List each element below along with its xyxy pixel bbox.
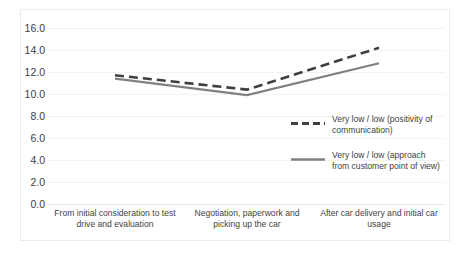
legend-item-label: Very low / low (positivity of communicat…	[332, 114, 443, 136]
line-chart: 0.02.04.06.08.010.012.014.016.0 From ini…	[0, 0, 465, 255]
y-axis-tick-label: 10.0	[3, 89, 45, 100]
y-axis-tick-label: 2.0	[3, 177, 45, 188]
chart-legend: Very low / low (positivity of communicat…	[291, 114, 443, 186]
y-axis-tick-label: 0.0	[3, 199, 45, 210]
y-axis-tick-label: 6.0	[3, 133, 45, 144]
dashed-line-swatch	[291, 115, 325, 126]
legend-item-label: Very low / low (approach from customer p…	[332, 150, 443, 172]
y-axis-tick-label: 14.0	[3, 45, 45, 56]
gridline	[49, 204, 445, 205]
y-axis-tick-label: 16.0	[3, 23, 45, 34]
y-axis-tick-label: 12.0	[3, 67, 45, 78]
x-axis-category-label: From initial consideration to test drive…	[49, 206, 181, 240]
legend-item[interactable]: Very low / low (approach from customer p…	[291, 150, 443, 172]
y-axis-tick-label: 4.0	[3, 155, 45, 166]
x-axis-labels: From initial consideration to test drive…	[49, 206, 445, 240]
x-axis-category-label: After car delivery and initial car usage	[313, 206, 445, 240]
solid-line-swatch	[291, 151, 325, 162]
y-axis: 0.02.04.06.08.010.012.014.016.0	[0, 28, 45, 204]
legend-item[interactable]: Very low / low (positivity of communicat…	[291, 114, 443, 136]
y-axis-tick-label: 8.0	[3, 111, 45, 122]
x-axis-category-label: Negotiation, paperwork and picking up th…	[181, 206, 313, 240]
